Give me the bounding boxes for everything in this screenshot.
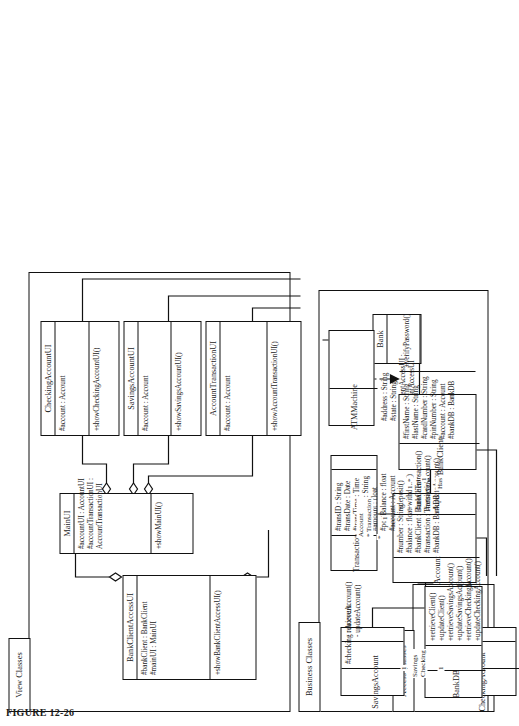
package-view-classes-label: View Classes [15, 652, 23, 698]
class-savingsaccount-operations: - retrieveAccount() - updateAccount() [341, 578, 403, 641]
class-transaction-operations [331, 445, 376, 469]
class-savingsaccountui-operations: +showSavingsAccountUI() [171, 322, 200, 435]
attribute: #account : Account [223, 326, 232, 431]
class-mainui-name: MainUI [60, 494, 74, 553]
multiplicity-savings-one: 1 [400, 666, 407, 672]
operation: +showCheckingAccountUI() [92, 326, 101, 431]
association-label-has: Has [435, 477, 443, 490]
class-accounttransactionui-name: AccountTransactionUI [206, 322, 220, 435]
attribute: #account : Account [388, 474, 397, 531]
class-atmmachine[interactable]: ATMMachine #address : String #state : St… [328, 330, 374, 426]
class-bankdb-name: BankDB [425, 670, 485, 697]
class-bankclientaccessui[interactable]: BankClientAccessUI #bankClient : BankCli… [122, 575, 256, 680]
class-checkingaccountui[interactable]: CheckingAccountUI #account : Account +sh… [40, 321, 119, 436]
multiplicity-account-many: 1..* [406, 478, 413, 491]
attribute: #address : String [380, 335, 389, 421]
attribute: #account : Account [58, 326, 67, 431]
package-business-classes-label: Business Classes [305, 638, 313, 696]
class-checkingaccountui-attributes: #account : Account [55, 322, 89, 435]
association-label-savings: Savings [410, 650, 418, 677]
attribute: #checking : Account [344, 646, 353, 664]
class-accounttransactionui[interactable]: AccountTransactionUI #account : Account … [205, 321, 301, 436]
class-checkingaccountui-name: CheckingAccountUI [41, 322, 55, 435]
class-bankdb-attributes [425, 645, 481, 670]
association-label-account-transaction: Account * Transaction [356, 498, 373, 538]
attribute: #lastName : String [411, 376, 420, 439]
class-accounttransactionui-attributes: #account : Account [220, 322, 267, 435]
class-mainui-attributes: #accountUI : AccountUI #accountTransacti… [74, 494, 151, 553]
operation: +showMainUI() [154, 498, 163, 549]
operation: - updateAccount() [353, 582, 362, 637]
attribute: #transDate : Date [343, 474, 352, 531]
class-bankdb-operations: +retrieveClient() +updateClient() +retri… [425, 554, 481, 645]
operation: +showAccountTransactionUI() [270, 326, 279, 431]
class-savingsaccount-name: SavingsAccount [341, 668, 407, 695]
attribute: #accountUI : AccountUI [77, 498, 86, 549]
operation: +retrieveCheckingAccount() [464, 558, 473, 641]
operation: +retrieveSavingsAccount() [446, 558, 455, 641]
attribute: #bankClient : BankClient [414, 519, 423, 553]
association-label-account: Account [356, 499, 364, 537]
operation: +updateSavingsAccount() [455, 558, 464, 641]
class-savingsaccountui-name: SavingsAccountUI [124, 322, 138, 435]
association-label-checking: Checking [418, 650, 426, 677]
attribute: #mainUI : MainUI [149, 580, 158, 675]
attribute: #balance : float [405, 519, 414, 553]
class-account-attributes: #number : String #balance : float #bankC… [393, 514, 475, 557]
class-transaction-name: Transaction [331, 535, 380, 570]
attribute: #postBalance : float [379, 474, 388, 531]
attribute: #accountTransactionUI : [86, 498, 95, 549]
class-savingsaccount-attributes: #checking : Account [341, 641, 403, 668]
association-label-transaction: * Transaction [364, 499, 372, 537]
association-label-savings-checking: Savings Checking [410, 649, 427, 678]
multiplicity-account-one: 1 [381, 516, 388, 522]
attribute: #transID : String [334, 474, 343, 531]
class-bankclientaccessui-attributes: #bankClient : BankClient #mainUI : MainU… [137, 576, 210, 679]
class-bankclientaccessui-operations: +showBankClientAccessUI() [210, 576, 255, 679]
operation: +retrieveClient() [428, 558, 437, 641]
operation: +showBankClientAccessUI() [213, 580, 222, 675]
class-accounttransactionui-operations: +showAccountTransactionUI() [267, 322, 300, 435]
operation: +updateCheckingAccount() [473, 558, 482, 641]
class-atmmachine-name: ATMMachine [329, 388, 377, 425]
attribute: #pinNumber : String [429, 376, 438, 439]
operation: - retrieveAccount() [344, 582, 353, 637]
class-bankclientaccessui-name: BankClientAccessUI [123, 576, 137, 679]
attribute: #cardNumber : String [420, 376, 429, 439]
operation: +verifyPassword() [402, 349, 411, 367]
attribute: #bankDB : BankDB [432, 519, 441, 553]
class-savingsaccountui-attributes: #account : Account [138, 322, 171, 435]
figure-caption: FIGURE 12-26 [6, 707, 74, 718]
multiplicity-checking-one: 1 [437, 666, 444, 672]
attribute: #state : String [389, 335, 398, 421]
class-bankclient-operations: +verifyPassword() [399, 345, 475, 371]
class-bankclient-attributes: #firstName : String #lastName : String #… [399, 371, 475, 443]
attribute: AccountTransactionUI [95, 498, 104, 549]
class-checkingaccountui-operations: +showCheckingAccountUI() [89, 322, 118, 435]
class-savingsaccount[interactable]: SavingsAccount #checking : Account - ret… [340, 627, 404, 696]
multiplicity-transaction-many: * [376, 535, 383, 541]
attribute: #bankClient : BankClient [140, 580, 149, 675]
multiplicity-bankclient-one: 1 [420, 477, 427, 483]
attribute: #bankDB : BankDB [447, 376, 456, 439]
package-view-classes-tab: View Classes [8, 638, 30, 712]
class-savingsaccountui[interactable]: SavingsAccountUI #account : Account +sho… [123, 321, 201, 436]
class-mainui[interactable]: MainUI #accountUI : AccountUI #accountTr… [59, 493, 193, 554]
operation: +showSavingsAccountUI() [174, 326, 183, 431]
attribute: #firstName : String [402, 376, 411, 439]
operation: +updateClient() [437, 558, 446, 641]
attribute: #transaction : Transaction [423, 519, 432, 553]
attribute: #account : Account [438, 376, 447, 439]
class-atmmachine-attributes: #address : String #state : String #bankC… [377, 331, 393, 425]
attribute: #account : Account [141, 326, 150, 431]
package-business-classes-tab: Business Classes [298, 622, 320, 712]
class-bankdb[interactable]: BankDB +retrieveClient() +updateClient()… [424, 586, 482, 698]
class-mainui-operations: +showMainUI() [151, 494, 192, 553]
